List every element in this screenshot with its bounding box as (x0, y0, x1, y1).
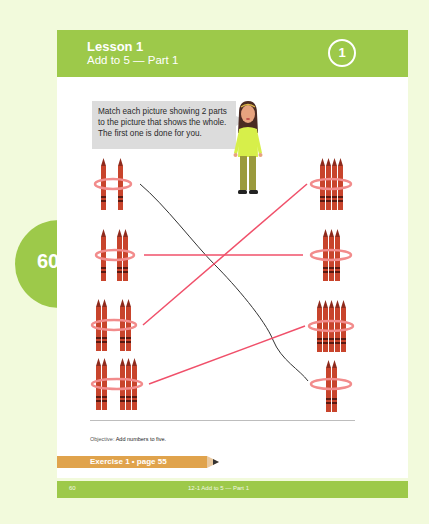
divider (90, 420, 355, 421)
left-item-2[interactable] (96, 229, 134, 281)
left-item-4[interactable] (92, 358, 142, 410)
footer-title: 12-1 Add to 5 — Part 1 (188, 485, 249, 491)
footer-page-number: 60 (69, 485, 76, 491)
right-item-2[interactable] (311, 229, 351, 281)
exercise-reference: Exercise 1 • page 55 (90, 457, 167, 466)
right-item-4[interactable] (311, 360, 351, 412)
page-footer: 60 12-1 Add to 5 — Part 1 (57, 481, 408, 498)
right-item-3[interactable] (309, 300, 353, 352)
exercise-reference-pencil: Exercise 1 • page 55 (57, 456, 207, 468)
pencil-lead-icon (213, 459, 219, 465)
objective-label: Objective: (90, 436, 114, 442)
matching-exercise (0, 0, 429, 524)
left-item-1[interactable] (95, 158, 131, 210)
objective-text: Add numbers to five. (116, 436, 166, 442)
objective: Objective: Add numbers to five. (90, 436, 166, 442)
right-item-1[interactable] (311, 158, 351, 210)
example-match-line (140, 184, 308, 381)
left-item-3[interactable] (92, 299, 136, 351)
